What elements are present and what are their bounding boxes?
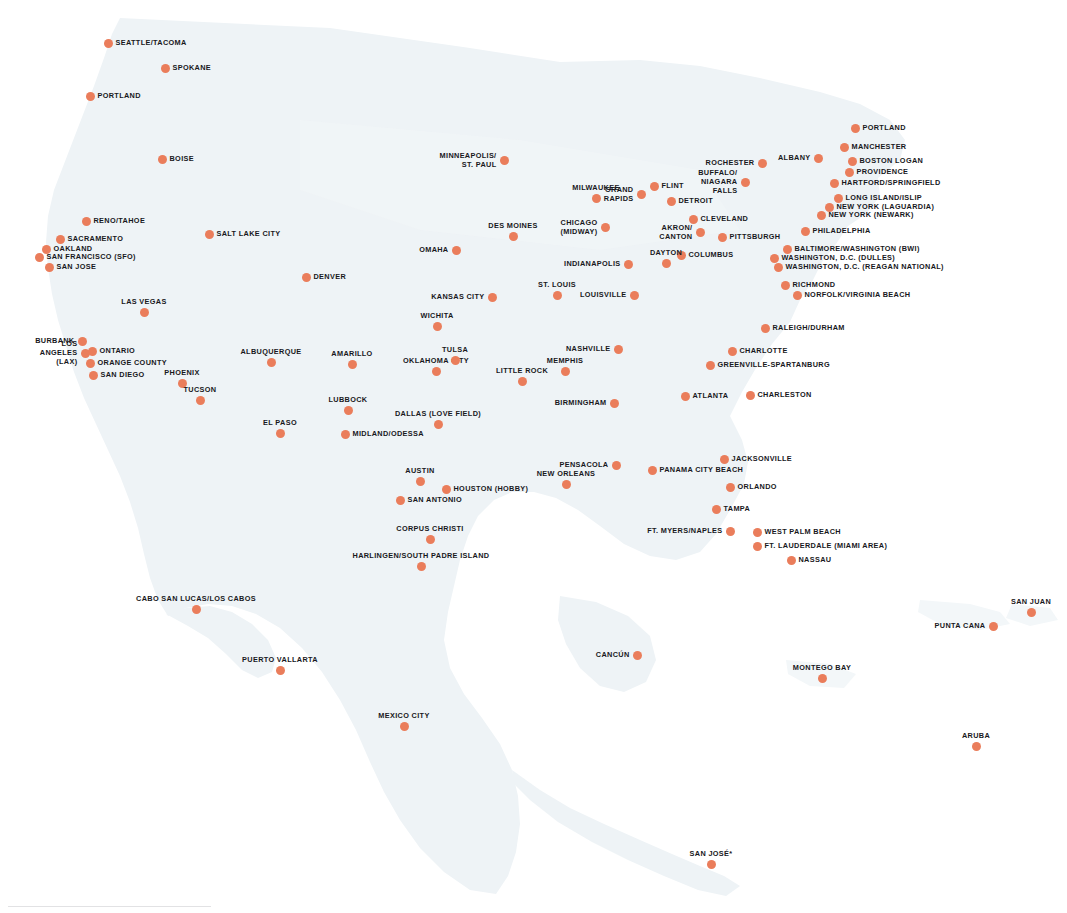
city-dot-icon[interactable]: [610, 399, 619, 408]
city-dot-icon[interactable]: [746, 391, 755, 400]
city-dot-icon[interactable]: [86, 92, 95, 101]
city-dot-icon[interactable]: [192, 605, 201, 614]
city-dot-icon[interactable]: [161, 64, 170, 73]
city-dot-icon[interactable]: [396, 496, 405, 505]
city-dot-icon[interactable]: [989, 622, 998, 631]
city-dot-icon[interactable]: [592, 194, 601, 203]
city-dot-icon[interactable]: [416, 477, 425, 486]
city-dot-icon[interactable]: [834, 194, 843, 203]
city-dot-icon[interactable]: [783, 245, 792, 254]
city-dot-icon[interactable]: [972, 742, 981, 751]
city-dot-icon[interactable]: [348, 360, 357, 369]
city-dot-icon[interactable]: [302, 273, 311, 282]
city-dot-icon[interactable]: [344, 406, 353, 415]
city-dot-icon[interactable]: [753, 542, 762, 551]
city-dot-icon[interactable]: [553, 291, 562, 300]
city-dot-icon[interactable]: [830, 179, 839, 188]
city-dot-icon[interactable]: [205, 230, 214, 239]
city-dot-icon[interactable]: [45, 263, 54, 272]
city-dot-icon[interactable]: [758, 159, 767, 168]
city-dot-icon[interactable]: [696, 228, 705, 237]
city-dot-icon[interactable]: [518, 377, 527, 386]
city-dot-icon[interactable]: [818, 674, 827, 683]
city-dot-icon[interactable]: [82, 217, 91, 226]
city-label: RALEIGH/DURHAM: [773, 323, 845, 332]
city-dot-icon[interactable]: [741, 178, 750, 187]
city-dot-icon[interactable]: [56, 235, 65, 244]
city-dot-icon[interactable]: [400, 722, 409, 731]
city-dot-icon[interactable]: [417, 562, 426, 571]
city-label: ORANGE COUNTY: [98, 358, 167, 367]
city-dot-icon[interactable]: [276, 666, 285, 675]
city-dot-icon[interactable]: [781, 281, 790, 290]
city-dot-icon[interactable]: [433, 322, 442, 331]
city-dot-icon[interactable]: [276, 429, 285, 438]
city-label: RENO/TAHOE: [94, 216, 146, 225]
city-dot-icon[interactable]: [633, 651, 642, 660]
city-dot-icon[interactable]: [451, 356, 460, 365]
city-dot-icon[interactable]: [196, 396, 205, 405]
city-dot-icon[interactable]: [561, 367, 570, 376]
city-dot-icon[interactable]: [88, 347, 97, 356]
city-label: NEW ORLEANS: [537, 469, 596, 478]
city-label: DENVER: [314, 272, 347, 281]
city-dot-icon[interactable]: [86, 359, 95, 368]
city-dot-icon[interactable]: [770, 254, 779, 263]
city-dot-icon[interactable]: [442, 485, 451, 494]
city-dot-icon[interactable]: [728, 347, 737, 356]
city-label: BOISE: [170, 154, 194, 163]
city-dot-icon[interactable]: [434, 420, 443, 429]
city-dot-icon[interactable]: [706, 361, 715, 370]
city-dot-icon[interactable]: [267, 358, 276, 367]
city-dot-icon[interactable]: [726, 483, 735, 492]
city-dot-icon[interactable]: [662, 259, 671, 268]
city-dot-icon[interactable]: [624, 260, 633, 269]
city-dot-icon[interactable]: [500, 156, 509, 165]
city-dot-icon[interactable]: [707, 860, 716, 869]
city-dot-icon[interactable]: [614, 345, 623, 354]
city-dot-icon[interactable]: [89, 371, 98, 380]
city-dot-icon[interactable]: [488, 293, 497, 302]
city-dot-icon[interactable]: [712, 505, 721, 514]
city-dot-icon[interactable]: [612, 461, 621, 470]
city-dot-icon[interactable]: [726, 527, 735, 536]
city-dot-icon[interactable]: [158, 155, 167, 164]
city-dot-icon[interactable]: [630, 291, 639, 300]
city-dot-icon[interactable]: [637, 190, 646, 199]
city-dot-icon[interactable]: [851, 124, 860, 133]
city-label: PUERTO VALLARTA: [242, 655, 318, 664]
city-dot-icon[interactable]: [35, 253, 44, 262]
city-dot-icon[interactable]: [104, 39, 113, 48]
city-dot-icon[interactable]: [509, 232, 518, 241]
city-dot-icon[interactable]: [140, 308, 149, 317]
city-label: SAN JOSÉ*: [690, 849, 733, 858]
city-dot-icon[interactable]: [720, 455, 729, 464]
city-label: SAN FRANCISCO (SFO): [47, 252, 136, 261]
city-dot-icon[interactable]: [452, 246, 461, 255]
city-dot-icon[interactable]: [761, 324, 770, 333]
city-dot-icon[interactable]: [774, 263, 783, 272]
city-dot-icon[interactable]: [667, 197, 676, 206]
city-dot-icon[interactable]: [601, 223, 610, 232]
city-dot-icon[interactable]: [648, 466, 657, 475]
city-dot-icon[interactable]: [718, 233, 727, 242]
city-dot-icon[interactable]: [753, 528, 762, 537]
city-dot-icon[interactable]: [78, 337, 87, 346]
city-dot-icon[interactable]: [426, 535, 435, 544]
city-dot-icon[interactable]: [681, 392, 690, 401]
city-dot-icon[interactable]: [793, 291, 802, 300]
city-dot-icon[interactable]: [817, 211, 826, 220]
city-dot-icon[interactable]: [432, 367, 441, 376]
city-dot-icon[interactable]: [801, 227, 810, 236]
city-dot-icon[interactable]: [840, 143, 849, 152]
city-dot-icon[interactable]: [848, 157, 857, 166]
footer-divider: [8, 906, 211, 907]
city-label: MANCHESTER: [852, 142, 907, 151]
city-dot-icon[interactable]: [562, 480, 571, 489]
city-dot-icon[interactable]: [650, 182, 659, 191]
city-dot-icon[interactable]: [1027, 608, 1036, 617]
city-dot-icon[interactable]: [845, 168, 854, 177]
city-dot-icon[interactable]: [814, 154, 823, 163]
city-dot-icon[interactable]: [341, 430, 350, 439]
city-dot-icon[interactable]: [787, 556, 796, 565]
